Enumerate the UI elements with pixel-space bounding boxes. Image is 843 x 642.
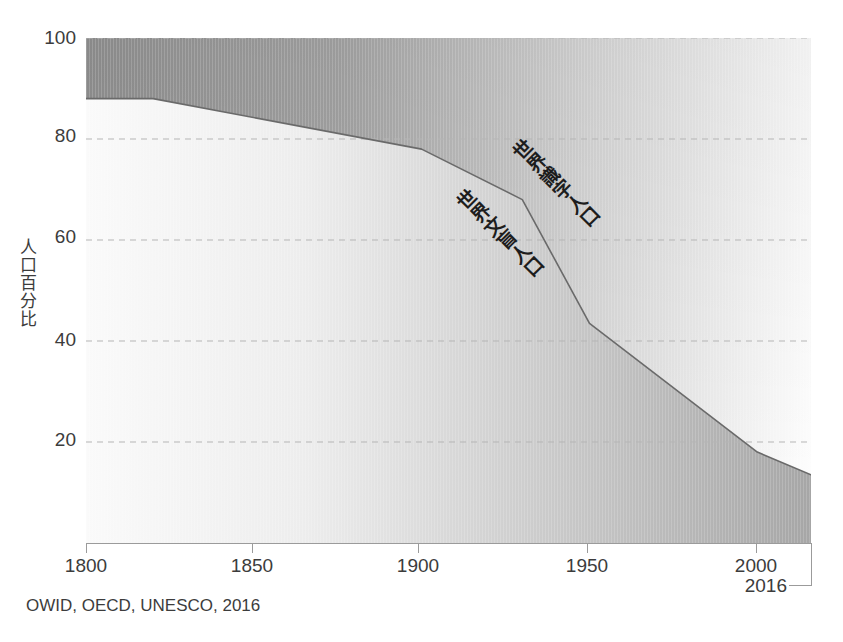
x-axis-line — [86, 543, 812, 544]
area-chart-svg — [86, 38, 811, 543]
ytick-label-80: 80 — [55, 125, 76, 147]
xtick-1850 — [252, 544, 253, 553]
xtick-1800 — [86, 544, 87, 553]
xtick-1900 — [418, 544, 419, 553]
end-tick-bracket-arm — [789, 585, 812, 586]
xtick-label-2016: 2016 — [745, 575, 787, 597]
ytick-label-40: 40 — [55, 329, 76, 351]
xtick-label-1800: 1800 — [65, 555, 107, 577]
xtick-label-1850: 1850 — [231, 555, 273, 577]
source-note: OWID, OECD, UNESCO, 2016 — [26, 596, 260, 616]
y-axis-labels: 100 80 60 40 20 — [0, 0, 76, 642]
xtick-label-2000: 2000 — [735, 555, 777, 577]
xtick-label-1950: 1950 — [566, 555, 608, 577]
texture-overlay — [86, 38, 811, 543]
xtick-1950 — [587, 544, 588, 553]
chart-figure: 100 80 60 40 20 人口百分比 1800 1850 1900 195… — [0, 0, 843, 642]
ytick-label-100: 100 — [44, 27, 76, 49]
ytick-label-60: 60 — [55, 226, 76, 248]
xtick-2000 — [756, 544, 757, 553]
y-axis-title: 人口百分比 — [18, 238, 35, 328]
plot-area — [86, 38, 811, 543]
xtick-label-1900: 1900 — [397, 555, 439, 577]
ytick-label-20: 20 — [55, 429, 76, 451]
end-tick-bracket — [811, 544, 812, 586]
